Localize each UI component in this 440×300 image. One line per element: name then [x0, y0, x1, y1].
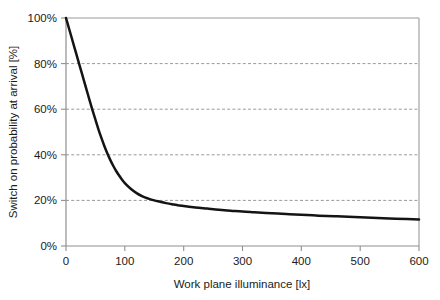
y-tick-labels: 100% 80% 60% 40% 20% 0%: [28, 12, 57, 252]
x-tick-labels: 0 100 200 300 400 500 600: [63, 255, 429, 267]
data-series-line: [66, 18, 419, 220]
line-chart: 100% 80% 60% 40% 20% 0% 0 100 200 300 40…: [0, 0, 440, 300]
x-axis-title: Work plane illuminance [lx]: [174, 278, 311, 290]
y-tick-marks: [61, 18, 66, 246]
y-tick-label-80: 80%: [34, 58, 57, 70]
y-tick-label-60: 60%: [34, 103, 57, 115]
chart-container: 100% 80% 60% 40% 20% 0% 0 100 200 300 40…: [0, 0, 440, 300]
x-tick-label-400: 400: [292, 255, 311, 267]
y-tick-label-0: 0%: [40, 240, 57, 252]
x-tick-label-600: 600: [409, 255, 428, 267]
y-tick-label-100: 100%: [28, 12, 57, 24]
x-tick-label-500: 500: [351, 255, 370, 267]
x-tick-marks: [66, 246, 419, 251]
x-tick-label-300: 300: [233, 255, 252, 267]
x-tick-label-100: 100: [115, 255, 134, 267]
y-tick-label-20: 20%: [34, 194, 57, 206]
x-tick-label-0: 0: [63, 255, 69, 267]
y-axis-title: Switch on probability at arrival [%]: [7, 46, 19, 219]
y-tick-label-40: 40%: [34, 149, 57, 161]
x-tick-label-200: 200: [174, 255, 193, 267]
gridlines: [66, 64, 419, 201]
